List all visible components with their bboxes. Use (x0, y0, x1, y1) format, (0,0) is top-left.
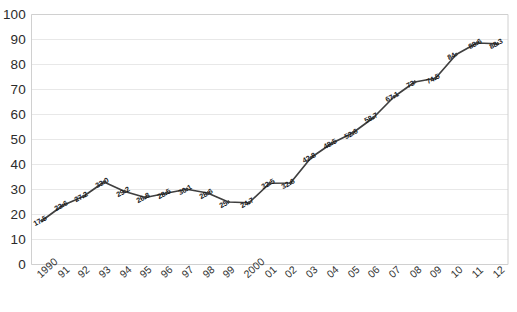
y-axis-tick-label: 60 (0, 107, 26, 122)
line-chart: 1009080706050403020100 19909192939495969… (0, 0, 517, 312)
y-axis-tick-label: 0 (0, 257, 26, 272)
y-axis-tick-label: 100 (0, 7, 26, 22)
y-axis-tick-label: 90 (0, 32, 26, 47)
y-axis-tick-label: 40 (0, 157, 26, 172)
gridlines (32, 15, 509, 265)
y-axis-tick-label: 70 (0, 82, 26, 97)
series-line (42, 43, 498, 221)
y-axis-tick-label: 10 (0, 232, 26, 247)
y-axis-tick-label: 30 (0, 182, 26, 197)
y-axis-tick-label: 80 (0, 57, 26, 72)
y-axis-tick-label: 50 (0, 132, 26, 147)
data-point-markers (40, 41, 500, 223)
y-axis-tick-label: 20 (0, 207, 26, 222)
